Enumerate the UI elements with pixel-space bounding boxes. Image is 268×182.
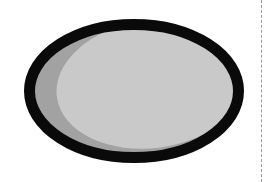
ellipse-figure — [0, 0, 268, 182]
vertical-dashed-guide — [261, 0, 262, 182]
diagram-canvas — [0, 0, 268, 182]
